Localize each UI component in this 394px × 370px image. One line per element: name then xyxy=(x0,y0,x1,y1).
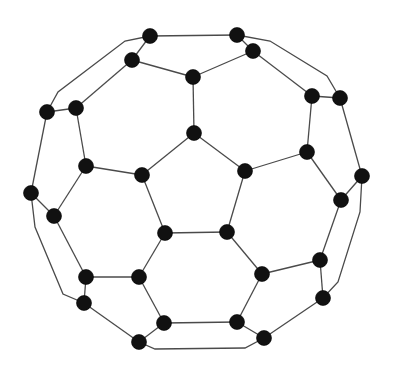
graph-node xyxy=(77,296,92,311)
graph-edge xyxy=(264,298,323,338)
graph-node xyxy=(255,267,270,282)
graph-node xyxy=(355,169,370,184)
graph-edge xyxy=(54,166,86,216)
graph-edge xyxy=(193,77,194,133)
graph-edge xyxy=(237,274,262,322)
graph-edge xyxy=(307,152,341,200)
graph-edge xyxy=(142,175,165,233)
graph-edge xyxy=(132,60,193,77)
graph-node xyxy=(47,209,62,224)
graph-edge xyxy=(227,232,262,274)
graph-edge xyxy=(320,200,341,260)
graph-edge xyxy=(76,60,132,108)
graph-node xyxy=(157,316,172,331)
graph-edge xyxy=(139,277,164,323)
fullerene-graph-diagram xyxy=(0,0,394,370)
graph-edge xyxy=(165,232,227,233)
graph-node xyxy=(246,44,261,59)
graph-edge xyxy=(31,112,47,193)
graph-edge xyxy=(54,216,86,277)
graph-edge xyxy=(253,51,312,96)
graph-node xyxy=(238,164,253,179)
graph-node xyxy=(300,145,315,160)
graph-node xyxy=(79,270,94,285)
graph-edge xyxy=(86,166,142,175)
graph-node xyxy=(257,331,272,346)
outer-bottom-edge xyxy=(139,338,264,349)
graph-edge xyxy=(164,322,237,323)
graph-node xyxy=(187,126,202,141)
graph-node xyxy=(230,28,245,43)
outer-top-left-edge xyxy=(47,36,150,112)
graph-edge xyxy=(262,260,320,274)
graph-node xyxy=(143,29,158,44)
graph-node xyxy=(313,253,328,268)
graph-node xyxy=(79,159,94,174)
graph-edge xyxy=(194,133,245,171)
graph-node xyxy=(40,105,55,120)
graph-node xyxy=(333,91,348,106)
graph-edge xyxy=(193,51,253,77)
graph-node xyxy=(69,101,84,116)
graph-edge xyxy=(227,171,245,232)
graph-node xyxy=(158,226,173,241)
graph-node xyxy=(125,53,140,68)
graph-node xyxy=(334,193,349,208)
graph-node xyxy=(132,270,147,285)
graph-edge xyxy=(150,35,237,36)
nodes-layer xyxy=(24,28,370,350)
graph-node xyxy=(230,315,245,330)
graph-node xyxy=(186,70,201,85)
graph-node xyxy=(24,186,39,201)
graph-node xyxy=(135,168,150,183)
graph-node xyxy=(132,335,147,350)
graph-edge xyxy=(307,96,312,152)
graph-edge xyxy=(76,108,86,166)
graph-edge xyxy=(245,152,307,171)
graph-node xyxy=(316,291,331,306)
graph-node xyxy=(220,225,235,240)
graph-node xyxy=(305,89,320,104)
graph-edge xyxy=(142,133,194,175)
graph-edge xyxy=(340,98,362,176)
graph-edge xyxy=(84,303,139,342)
